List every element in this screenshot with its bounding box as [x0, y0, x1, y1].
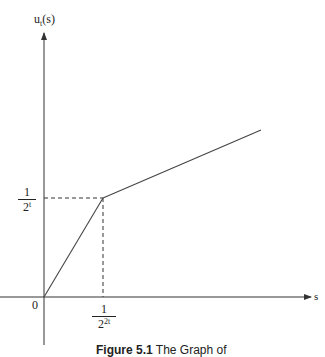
curve-segment-steep	[44, 198, 103, 297]
plot-area	[0, 0, 325, 357]
y-tick-label: 1 2t	[18, 186, 36, 213]
curve-segment-shallow	[103, 130, 261, 198]
origin-label: 0	[32, 298, 38, 313]
caption-number: Figure 5.1	[96, 343, 153, 357]
x-tick-label: 1 22t	[92, 303, 116, 330]
y-axis-label: ut(s)	[34, 12, 55, 28]
x-axis-label: s	[314, 290, 318, 302]
figure-caption: Figure 5.1 The Graph of	[96, 343, 227, 357]
caption-text: The Graph of	[156, 343, 227, 357]
